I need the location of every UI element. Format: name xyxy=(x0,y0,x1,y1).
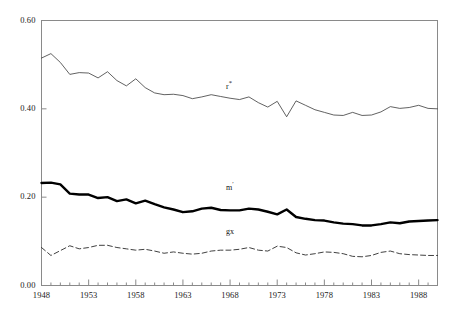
series-line-gx xyxy=(42,245,438,256)
y-tick-label: 0.40 xyxy=(6,103,36,113)
series-line-r xyxy=(42,54,438,117)
y-tick-label: 0.20 xyxy=(6,191,36,201)
y-tick-label: 0.00 xyxy=(6,280,36,290)
data-series-group xyxy=(42,54,438,257)
series-label-superscript: * xyxy=(229,79,232,86)
x-tick-label: 1953 xyxy=(69,290,109,300)
x-tick-label: 1948 xyxy=(22,290,62,300)
series-label-r: r* xyxy=(226,79,232,91)
y-tick-label: 0.60 xyxy=(6,15,36,25)
chart-plot-area xyxy=(0,0,459,311)
x-tick-label: 1983 xyxy=(352,290,392,300)
y-axis-ticks xyxy=(42,21,47,286)
x-tick-label: 1958 xyxy=(116,290,156,300)
x-tick-label: 1988 xyxy=(399,290,439,300)
series-label-text: gx xyxy=(226,227,234,236)
x-tick-label: 1963 xyxy=(163,290,203,300)
series-label-superscript: ′ xyxy=(232,180,233,187)
series-label-gx: gx xyxy=(226,227,234,236)
x-tick-label: 1978 xyxy=(304,290,344,300)
chart-figure: 0.000.200.400.60 19481953195819631968197… xyxy=(0,0,459,311)
x-tick-label: 1973 xyxy=(257,290,297,300)
series-line-m xyxy=(42,183,438,226)
series-label-m: m′ xyxy=(226,180,234,192)
x-tick-label: 1968 xyxy=(210,290,250,300)
